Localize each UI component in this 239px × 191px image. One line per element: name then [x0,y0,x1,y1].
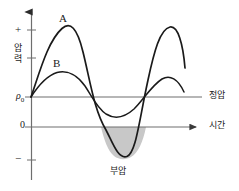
curve-b-label: B [53,58,60,69]
time-axis-label: 시간 [209,121,225,130]
baseline-pressure-label: ρ0 [16,91,24,104]
curve-a-label: A [59,13,67,24]
baseline-pressure-subscript: 0 [21,96,25,104]
curve-b-path [31,72,184,117]
pressure-vs-time-chart: 압 력 + − ρ0 0 A B 정압 시간 부압 [0,0,239,191]
positive-sign-label: + [15,24,21,35]
chart-plot-area [0,0,239,191]
pressure-axis-label-char-1: 압 [14,44,22,53]
pressure-axis-label: 압 력 [12,44,24,64]
static-pressure-label: 정압 [209,91,225,100]
negative-sign-label: − [15,153,21,164]
negative-pressure-label: 부압 [110,167,126,176]
pressure-axis-label-char-2: 력 [14,55,22,64]
zero-axis-label: 0 [20,120,25,130]
